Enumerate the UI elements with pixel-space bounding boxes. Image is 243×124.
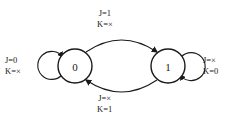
self-loop-label-state-1-line2: K=0 [203, 66, 218, 77]
transition-label-1-to-0-line2: K=1 [97, 104, 112, 115]
transition-label-1-to-0: J=× K=1 [97, 93, 112, 115]
transition-label-0-to-1-line2: K=× [97, 19, 113, 30]
transition-label-0-to-1-line1: J=1 [97, 8, 113, 19]
transition-label-1-to-0-line1: J=× [97, 93, 112, 104]
transition-arrow-1-to-0 [86, 80, 157, 92]
self-loop-label-state-1: J=× K=0 [203, 55, 218, 77]
self-loop-label-state-1-line1: J=× [203, 55, 218, 66]
state-diagram-canvas: 0 1 J=1 K=× J=× K=1 J=0 K=× J=× K=0 [0, 0, 243, 124]
self-loop-label-state-0: J=0 K=× [5, 55, 21, 77]
transition-label-0-to-1: J=1 K=× [97, 8, 113, 30]
state-node-0-label: 0 [72, 61, 78, 73]
self-loop-label-state-0-line2: K=× [5, 66, 21, 77]
state-node-1-label: 1 [165, 61, 171, 73]
self-loop-label-state-0-line1: J=0 [5, 55, 21, 66]
transition-arrow-0-to-1 [86, 40, 157, 52]
